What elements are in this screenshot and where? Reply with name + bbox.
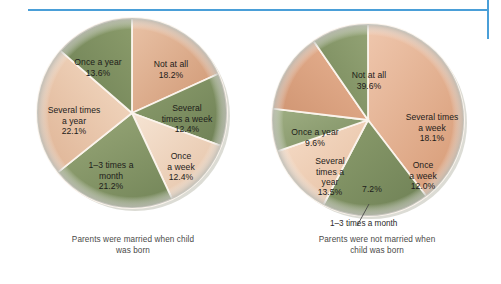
label-several-times-a-week: Several times a week 18.1%	[393, 102, 471, 154]
label-text: Once a year	[74, 57, 121, 67]
label-text: Several times a year	[48, 105, 101, 125]
top-rule-line	[28, 9, 488, 11]
label-text: Not at all	[352, 70, 386, 80]
label-several-times-a-year: Several times a year 22.1%	[35, 95, 113, 147]
label-once-a-year: Once a year 13.6%	[61, 47, 135, 88]
label-pct: 18.2%	[136, 70, 206, 80]
label-not-at-all: Not at all 39.6%	[334, 60, 404, 101]
label-pct: 13.6%	[61, 68, 135, 78]
label-text: Once a week	[409, 160, 437, 180]
caption-married: Parents were married when child was born	[43, 234, 223, 256]
label-pct: 9.6%	[277, 138, 353, 148]
label-pct: 39.6%	[334, 81, 404, 91]
label-1-3-times-a-month: 1–3 times a month 21.2%	[71, 150, 151, 202]
pie-chart-married: Not at all 18.2% Several times a week 12…	[33, 14, 233, 214]
label-text: Once a week	[167, 151, 195, 171]
label-text: Not at all	[154, 59, 188, 69]
label-once-a-week: Once a week 12.0%	[396, 150, 450, 202]
figure-root: Not at all 18.2% Several times a week 12…	[0, 0, 501, 284]
label-pct: 12.0%	[396, 181, 450, 191]
label-once-a-week: Once a week 12.4%	[152, 141, 210, 193]
callout-1-3-times-a-month: 1–3 times a month	[330, 219, 397, 228]
label-text: Several times a week	[406, 112, 459, 132]
label-pct: 21.2%	[71, 181, 151, 191]
label-pct: 12.4%	[146, 124, 228, 134]
label-pct: 12.4%	[152, 172, 210, 182]
pie-chart-not-married: Not at all 39.6% Several times a week 18…	[271, 22, 471, 222]
label-text: Several times a week	[162, 103, 213, 123]
label-once-a-year: Once a year 9.6%	[277, 117, 353, 158]
label-several-times-a-week: Several times a week 12.4%	[146, 93, 228, 145]
label-1-3-times-a-month-pct: 7.2%	[350, 174, 394, 205]
label-pct: 7.2%	[350, 184, 394, 194]
label-pct: 13.5%	[306, 187, 354, 197]
label-text: Several times a year	[315, 156, 345, 187]
label-text: Once a year	[291, 127, 338, 137]
right-rule-line	[487, 0, 489, 39]
label-not-at-all: Not at all 18.2%	[136, 49, 206, 90]
label-text: 1–3 times a month	[89, 160, 134, 180]
label-pct: 18.1%	[393, 133, 471, 143]
caption-not-married: Parents were not married when child was …	[287, 234, 467, 256]
label-pct: 22.1%	[35, 126, 113, 136]
